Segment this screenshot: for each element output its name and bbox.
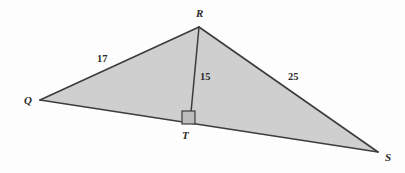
vertex-label-q: Q	[24, 95, 32, 106]
triangle-qrs-fill	[40, 27, 378, 152]
triangle-diagram-svg	[0, 0, 405, 173]
measure-label-rs: 25	[288, 72, 299, 83]
vertex-label-t: T	[182, 130, 189, 141]
measure-label-rt: 15	[200, 72, 211, 83]
vertex-label-r: R	[196, 8, 203, 19]
right-angle-mark-icon	[182, 111, 195, 124]
measure-label-qr: 17	[97, 54, 108, 65]
vertex-label-s: S	[385, 152, 391, 163]
geometry-figure: Q R S T 17 15 25	[0, 0, 405, 173]
